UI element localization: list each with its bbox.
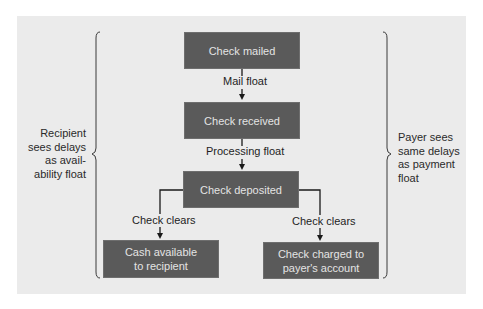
node-check-mailed-label: Check mailed	[209, 44, 276, 58]
edge-label-check-clears-left: Check clears	[132, 214, 196, 227]
right-brace-note: Payer sees same delays as payment float	[398, 131, 468, 185]
right-note-line4: float	[398, 172, 468, 186]
right-note-line2: same delays	[398, 145, 468, 159]
node-check-deposited-label: Check deposited	[200, 183, 282, 197]
edge-label-processing-float: Processing float	[206, 145, 284, 158]
left-note-line2: sees delays	[20, 141, 86, 155]
node-cash-available-line2: to recipient	[134, 259, 188, 273]
edge-label-mail-float: Mail float	[223, 75, 267, 88]
node-cash-available-line1: Cash available	[125, 245, 197, 259]
left-note-line1: Recipient	[20, 127, 86, 141]
node-check-charged-line2: payer's account	[283, 261, 360, 275]
right-note-line3: as payment	[398, 158, 468, 172]
node-check-deposited: Check deposited	[183, 171, 299, 208]
node-check-received-label: Check received	[204, 114, 280, 128]
node-cash-available: Cash available to recipient	[103, 240, 219, 278]
node-check-mailed: Check mailed	[184, 32, 300, 69]
left-note-line3: as avail-	[20, 154, 86, 168]
right-note-line1: Payer sees	[398, 131, 468, 145]
node-check-charged: Check charged to payer's account	[263, 242, 379, 279]
right-brace	[383, 32, 391, 278]
edge-label-check-clears-right: Check clears	[292, 215, 356, 228]
left-note-line4: ability float	[20, 168, 86, 182]
node-check-received: Check received	[184, 102, 300, 139]
left-brace-note: Recipient sees delays as avail- ability …	[20, 127, 86, 181]
left-brace	[92, 32, 100, 278]
node-check-charged-line1: Check charged to	[278, 247, 364, 261]
